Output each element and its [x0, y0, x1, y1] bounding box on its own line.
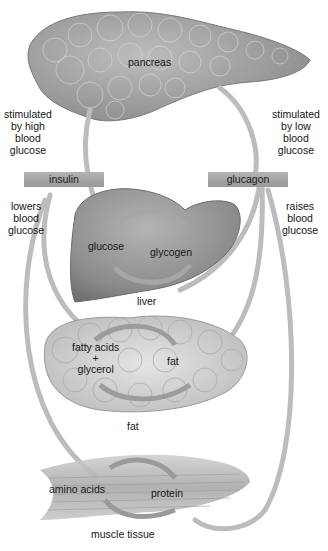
- liver-glycogen-label: glycogen: [150, 246, 192, 258]
- fat-cycle-label: fat: [167, 355, 179, 367]
- insulin-stimulus-label: stimulated by high blood glucose: [4, 108, 52, 156]
- fatty-acids-glycerol-label: fatty acids + glycerol: [72, 342, 119, 375]
- glucagon-stimulus-label: stimulated by low blood glucose: [272, 108, 320, 156]
- diagram-illustration: [0, 0, 328, 551]
- fat-label: fat: [127, 420, 139, 432]
- amino-acids-label: amino acids: [49, 483, 105, 495]
- protein-label: protein: [151, 487, 183, 499]
- muscle-tissue-label: muscle tissue: [91, 528, 155, 540]
- glucagon-box: glucagon: [208, 172, 288, 187]
- insulin-effect-label: lowers blood glucose: [8, 200, 44, 236]
- liver-label: liver: [137, 295, 156, 307]
- glucagon-effect-label: raises blood glucose: [282, 200, 318, 236]
- insulin-box: insulin: [24, 172, 104, 187]
- pancreas-label: pancreas: [128, 56, 171, 68]
- liver-glucose-label: glucose: [88, 240, 124, 252]
